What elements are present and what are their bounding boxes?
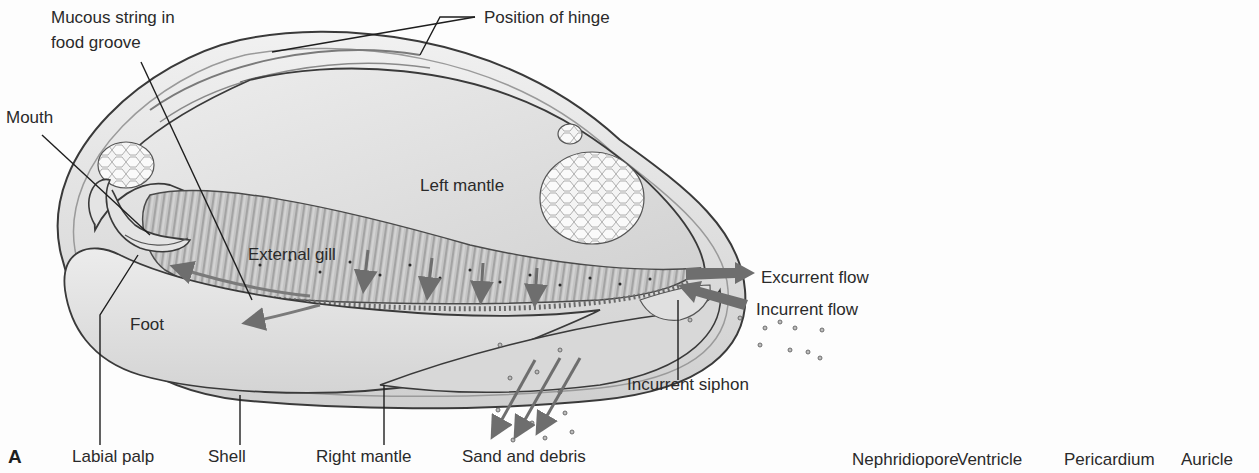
label-excurrent-flow: Excurrent flow <box>761 268 869 288</box>
label-mucous-string-line2: food groove <box>51 33 141 53</box>
panel-letter: A <box>8 447 22 467</box>
clam-illustration <box>0 0 1259 473</box>
clam-anatomy-figure: Mucous string in food groove Position of… <box>0 0 1259 473</box>
label-foot: Foot <box>130 315 164 335</box>
label-external-gill: External gill <box>248 245 336 265</box>
label-mucous-string-line1: Mucous string in <box>51 8 175 28</box>
label-right-mantle: Right mantle <box>316 447 411 467</box>
label-mouth: Mouth <box>6 108 53 128</box>
label-sand-and-debris: Sand and debris <box>462 447 586 467</box>
label-left-mantle: Left mantle <box>420 176 504 196</box>
label-shell: Shell <box>208 447 246 467</box>
label-auricle: Auricle <box>1181 450 1233 470</box>
label-pericardium: Pericardium <box>1064 450 1155 470</box>
label-nephridiopore: Nephridiopore <box>852 450 959 470</box>
label-position-of-hinge: Position of hinge <box>484 8 610 28</box>
label-labial-palp: Labial palp <box>72 447 154 467</box>
label-incurrent-flow: Incurrent flow <box>756 300 858 320</box>
label-incurrent-siphon: Incurrent siphon <box>627 375 749 395</box>
label-ventricle: Ventricle <box>957 450 1022 470</box>
